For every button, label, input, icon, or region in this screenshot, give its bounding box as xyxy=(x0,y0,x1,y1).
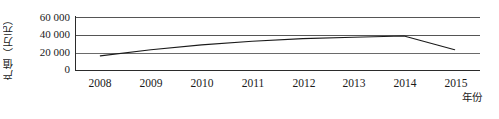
x-tick-label-2014: 2014 xyxy=(379,77,431,90)
x-tick-label-2011: 2011 xyxy=(227,77,279,90)
x-tick-label-2015: 2015 xyxy=(430,77,482,90)
x-tick-label-2010: 2010 xyxy=(176,77,228,90)
x-tick-label-2012: 2012 xyxy=(278,77,330,90)
x-tick-label-2013: 2013 xyxy=(328,77,380,90)
line-chart: 产值（万元） 60 000 40 000 20 000 0 xyxy=(0,0,499,119)
x-axis-tick-labels: 2008 2009 2010 2011 2012 2013 2014 2015 xyxy=(0,0,499,119)
x-tick-label-2009: 2009 xyxy=(125,77,177,90)
x-axis-title: 年份 xyxy=(462,92,482,103)
x-tick-label-2008: 2008 xyxy=(74,77,126,90)
